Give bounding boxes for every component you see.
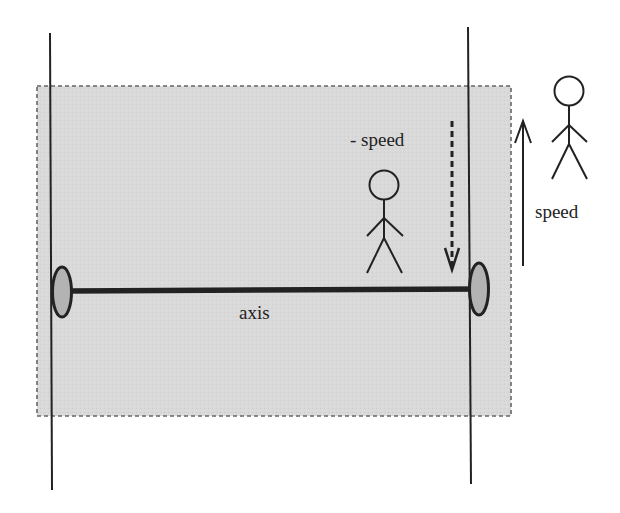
axis-label: axis [239,302,270,323]
outer-figure-right-leg [569,144,587,179]
outer-figure-left-leg [552,144,569,179]
right-ellipse [470,263,489,315]
outer-stick-figure [552,77,587,180]
neg-speed-label: - speed [350,129,405,150]
outer-figure-left-arm [552,125,569,142]
shaded-region-box [37,86,511,416]
speed-arrow [515,121,531,266]
speed-label: speed [535,201,579,222]
outer-figure-right-arm [569,125,587,142]
left-ellipse [53,267,72,317]
rotation-axis [68,289,481,291]
outer-figure-head [555,77,584,106]
rotating-frame-diagram: axis - speed speed [0,0,620,513]
